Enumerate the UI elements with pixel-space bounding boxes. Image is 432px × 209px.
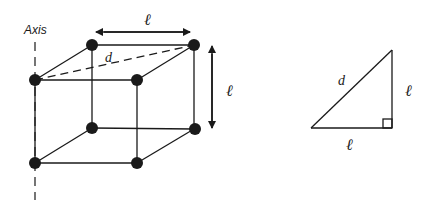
cube-side-edge-label: ℓ	[226, 82, 233, 99]
atom	[86, 122, 98, 134]
face-diagonal	[35, 45, 194, 80]
atom	[188, 39, 200, 51]
cube-diagonal-label: d	[105, 50, 113, 65]
axis-label: Axis	[23, 23, 47, 37]
atoms	[29, 39, 201, 169]
cube-top-edge-label: ℓ	[144, 11, 151, 28]
right-triangle	[311, 50, 392, 128]
atom	[86, 39, 98, 51]
right-angle-marker	[383, 119, 392, 128]
triangle-vertical-leg-label: ℓ	[405, 82, 412, 99]
triangle-hypotenuse-label: d	[338, 73, 346, 88]
atom	[131, 74, 143, 86]
triangle-horizontal-leg-label: ℓ	[346, 136, 353, 153]
atom	[131, 157, 143, 169]
cube-diagram: Axis ℓ ℓ d	[0, 0, 432, 209]
atom	[29, 74, 41, 86]
atom	[189, 123, 201, 135]
atom	[29, 157, 41, 169]
